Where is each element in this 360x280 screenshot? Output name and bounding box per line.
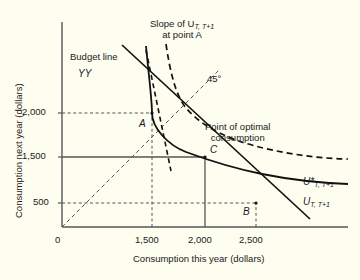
optimal-consumption-line2: consumption [211, 132, 265, 143]
point-label-c: C [210, 144, 217, 156]
yy-label: YY [78, 68, 91, 80]
y-tick-label-0: 0 [55, 235, 60, 246]
curve-label-u-star-subscript: T, T+1 [314, 181, 334, 188]
x-axis-title: Consumption this year (dollars) [133, 254, 264, 265]
optimal-consumption-line1: Point of optimal [205, 121, 270, 132]
slope-annotation-line2: at point A [162, 29, 202, 40]
x-tick-label-2500: 2,500 [239, 235, 263, 246]
budget-line-label: Budget line [70, 52, 118, 63]
forty-five-degree-label: 45° [207, 74, 221, 85]
point-label-b: B [243, 206, 250, 218]
slope-annotation-line1-text: Slope of U [150, 18, 194, 29]
point-label-a: A [139, 118, 146, 130]
curve-label-u-star: U*T, T+1 [303, 176, 334, 188]
y-tick-label-500: 500 [33, 197, 49, 208]
slope-annotation: Slope of UT, T+1 at point A [150, 19, 214, 41]
optimal-consumption-annotation: Point of optimal consumption [205, 122, 270, 144]
curve-label-u-subscript: T, T+1 [310, 201, 330, 208]
data-point-b [254, 201, 257, 204]
slope-annotation-subscript: T, T+1 [194, 23, 214, 30]
data-point-a [150, 111, 153, 114]
x-tick-label-2000: 2,000 [188, 235, 212, 246]
curve-label-u: UT, T+1 [303, 196, 330, 208]
chart-background [0, 0, 360, 280]
consumption-indifference-chart [0, 0, 360, 280]
data-point-c [203, 155, 206, 158]
y-tick-label-2000: 2,000 [22, 107, 46, 118]
y-tick-label-1500: 1,500 [22, 151, 46, 162]
x-tick-label-1500: 1,500 [135, 235, 159, 246]
curve-label-u-star-base: U* [303, 176, 314, 187]
